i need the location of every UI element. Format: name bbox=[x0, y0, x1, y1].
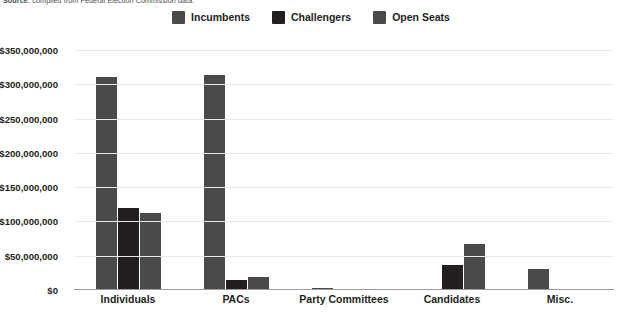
x-axis-label: PACs bbox=[182, 293, 290, 305]
legend-swatch-challengers bbox=[272, 11, 285, 24]
bar[interactable] bbox=[528, 269, 549, 290]
y-axis-tick-label: $350,000,000 bbox=[0, 45, 58, 56]
x-axis-label: Party Committees bbox=[290, 293, 398, 305]
x-axis-labels: IndividualsPACsParty CommitteesCandidate… bbox=[74, 293, 614, 305]
legend-item-label: Incumbents bbox=[191, 12, 250, 23]
gridline bbox=[74, 221, 614, 222]
x-axis-label: Misc. bbox=[506, 293, 614, 305]
legend-item-label: Challengers bbox=[291, 12, 351, 23]
plot-area: $350,000,000$300,000,000$250,000,000$200… bbox=[74, 50, 614, 290]
legend-item-label: Open Seats bbox=[392, 12, 450, 23]
bar[interactable] bbox=[140, 213, 161, 290]
bar[interactable] bbox=[204, 75, 225, 290]
legend-swatch-incumbents bbox=[172, 11, 185, 24]
gridline bbox=[74, 50, 614, 51]
bar[interactable] bbox=[464, 244, 485, 290]
source-note-body: compiled from Federal Election Commissio… bbox=[32, 0, 194, 5]
bar-group bbox=[74, 50, 182, 290]
bar[interactable] bbox=[96, 77, 117, 290]
legend-item[interactable]: Challengers bbox=[272, 11, 351, 24]
x-axis-label: Candidates bbox=[398, 293, 506, 305]
source-note: Source: compiled from Federal Election C… bbox=[3, 0, 194, 5]
bar-group bbox=[290, 50, 398, 290]
gridline bbox=[74, 153, 614, 154]
x-axis-line bbox=[74, 289, 614, 290]
bar[interactable] bbox=[118, 208, 139, 290]
source-note-lead: Source: bbox=[3, 0, 30, 5]
bar-group bbox=[506, 50, 614, 290]
legend-item[interactable]: Open Seats bbox=[373, 11, 450, 24]
bar-group bbox=[398, 50, 506, 290]
gridline bbox=[74, 256, 614, 257]
y-axis-tick-label: $50,000,000 bbox=[0, 250, 58, 261]
bar[interactable] bbox=[442, 265, 463, 290]
gridline bbox=[74, 119, 614, 120]
chart-legend: IncumbentsChallengersOpen Seats bbox=[0, 11, 622, 24]
y-axis-tick-label: $200,000,000 bbox=[0, 147, 58, 158]
y-axis-tick-label: $300,000,000 bbox=[0, 79, 58, 90]
chart-page: Source: compiled from Federal Election C… bbox=[0, 0, 622, 324]
bar-group bbox=[182, 50, 290, 290]
gridline bbox=[74, 84, 614, 85]
legend-item[interactable]: Incumbents bbox=[172, 11, 250, 24]
y-axis-tick-label: $100,000,000 bbox=[0, 216, 58, 227]
y-axis-tick-label: $0 bbox=[0, 285, 58, 296]
legend-swatch-open-seats bbox=[373, 11, 386, 24]
y-axis-tick-label: $150,000,000 bbox=[0, 182, 58, 193]
gridline bbox=[74, 187, 614, 188]
bar-groups bbox=[74, 50, 614, 290]
y-axis-tick-label: $250,000,000 bbox=[0, 113, 58, 124]
x-axis-label: Individuals bbox=[74, 293, 182, 305]
